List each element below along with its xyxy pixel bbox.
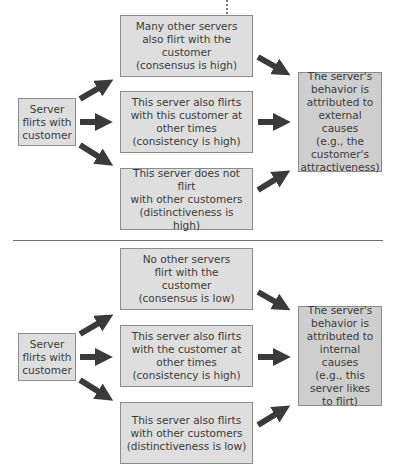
source-box: Server flirts with customer xyxy=(18,98,76,146)
arrow-source-to-distinctiveness xyxy=(80,380,104,395)
distinctiveness-label: This server does not flirt with other cu… xyxy=(125,167,248,232)
consensus-box: Many other servers also flirt with the c… xyxy=(120,15,253,77)
arrow-source-to-consensus xyxy=(80,320,104,334)
consistency-label: This server also flirts with the custome… xyxy=(132,330,242,382)
consistency-box: This server also flirts with this custom… xyxy=(120,91,253,153)
distinctiveness-box: This server also flirts with other custo… xyxy=(120,402,253,464)
consistency-box: This server also flirts with the custome… xyxy=(120,325,253,387)
arrow-source-to-consensus xyxy=(80,85,104,99)
distinctiveness-label: This server also flirts with other custo… xyxy=(127,414,246,453)
arrow-distinctiveness-to-result xyxy=(258,176,281,190)
arrow-consensus-to-result xyxy=(258,57,281,70)
consistency-label: This server also flirts with this custom… xyxy=(131,96,242,148)
panel-divider xyxy=(13,240,383,241)
source-label: Server flirts with customer xyxy=(22,338,71,377)
arrow-consensus-to-result xyxy=(258,292,281,305)
arrow-distinctiveness-to-result xyxy=(258,411,281,425)
arrow-source-to-distinctiveness xyxy=(80,145,104,160)
consensus-label: No other servers flirt with the customer… xyxy=(138,253,234,305)
result-label: The server's behavior is attributed to i… xyxy=(303,304,377,408)
result-label: The server's behavior is attributed to e… xyxy=(300,70,379,174)
result-box-internal: The server's behavior is attributed to i… xyxy=(298,306,382,406)
result-box-external: The server's behavior is attributed to e… xyxy=(298,72,382,172)
source-label: Server flirts with customer xyxy=(22,103,71,142)
distinctiveness-box: This server does not flirt with other cu… xyxy=(120,168,253,230)
consensus-box: No other servers flirt with the customer… xyxy=(120,248,253,310)
source-box: Server flirts with customer xyxy=(18,333,76,381)
consensus-label: Many other servers also flirt with the c… xyxy=(136,20,238,72)
